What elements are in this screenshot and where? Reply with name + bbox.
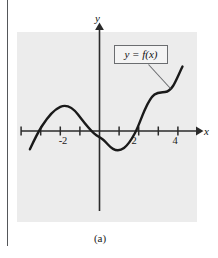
x-tick-label-neg2: -2 bbox=[54, 136, 72, 147]
x-axis-arrowhead bbox=[196, 127, 204, 136]
x-axis-label: x bbox=[204, 126, 209, 137]
x-tick-label-4: 4 bbox=[168, 136, 182, 147]
graph-svg bbox=[0, 0, 218, 258]
callout-leader-line bbox=[149, 65, 171, 89]
figure-caption: (a) bbox=[0, 232, 200, 244]
function-label-callout: y = f(x) bbox=[114, 45, 168, 64]
y-axis bbox=[95, 23, 104, 212]
function-curve bbox=[30, 67, 183, 151]
function-label-text: y = f(x) bbox=[124, 49, 157, 60]
figure-container: y = f(x) y x -2 2 4 (a) bbox=[0, 0, 218, 258]
y-axis-label: y bbox=[95, 13, 100, 24]
x-tick-label-2: 2 bbox=[127, 136, 141, 147]
